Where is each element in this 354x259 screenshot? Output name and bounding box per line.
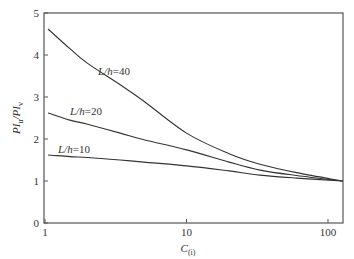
x-tick-label: 10 bbox=[181, 226, 193, 238]
y-tick-label: 5 bbox=[34, 7, 40, 19]
y-tick-label: 2 bbox=[34, 133, 40, 145]
series-line-l-h-20 bbox=[48, 113, 343, 181]
x-axis-label: C(i) bbox=[181, 242, 196, 257]
plot-frame bbox=[44, 13, 343, 223]
x-axis-ticks: 110100 bbox=[42, 219, 337, 238]
y-axis-label: PIu/PIv bbox=[10, 102, 25, 135]
y-tick-label: 1 bbox=[34, 175, 40, 187]
series-line-l-h-10 bbox=[48, 155, 343, 181]
y-tick-label: 4 bbox=[34, 49, 40, 61]
y-tick-label: 0 bbox=[34, 217, 40, 229]
x-tick-label: 1 bbox=[42, 226, 48, 238]
chart: 012345 110100 L/h=40L/h=20L/h=10 C(i) PI… bbox=[0, 0, 354, 259]
series-label: L/h=10 bbox=[57, 143, 90, 155]
x-tick-label: 100 bbox=[320, 226, 337, 238]
y-tick-label: 3 bbox=[34, 91, 40, 103]
series-label: L/h=40 bbox=[97, 65, 130, 77]
plot-border bbox=[44, 13, 343, 223]
series-label: L/h=20 bbox=[69, 105, 102, 117]
y-axis-ticks: 012345 bbox=[34, 7, 49, 229]
series-labels: L/h=40L/h=20L/h=10 bbox=[57, 65, 130, 155]
